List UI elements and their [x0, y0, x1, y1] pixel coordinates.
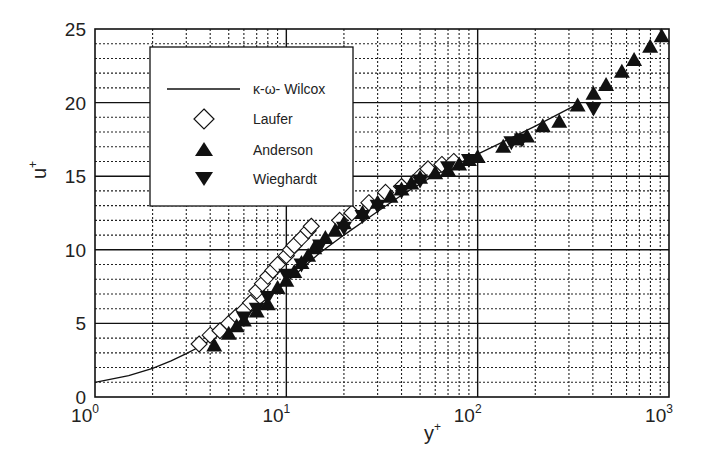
y-tick-label: 20	[65, 93, 86, 114]
y-tick-label: 15	[65, 166, 86, 187]
y-tick-labels: 0510152025	[65, 19, 86, 408]
legend-label-anderson: Anderson	[253, 142, 313, 158]
x-axis-label-main: y	[424, 422, 434, 444]
legend-label-wieghardt: Wieghardt	[253, 171, 317, 187]
y-axis-label-main: u	[28, 168, 50, 179]
y-tick-label: 25	[65, 19, 86, 40]
x-axis-label-sup: +	[434, 420, 441, 434]
legend-label-wilcox: κ-ω- Wilcox	[253, 81, 325, 97]
y-tick-label: 5	[75, 313, 86, 334]
x-tick-label: 100	[71, 402, 99, 426]
y-axis-label-sup: +	[26, 161, 40, 168]
x-axis-label: y+	[424, 420, 441, 444]
x-tick-label: 103	[645, 402, 673, 426]
chart: 0510152025 100101102103 u+ y+ κ-ω- Wilco…	[0, 0, 716, 466]
y-tick-label: 10	[65, 240, 86, 261]
x-tick-labels: 100101102103	[71, 402, 673, 426]
triangle-up-marker	[570, 98, 586, 112]
x-tick-label: 101	[262, 402, 290, 426]
legend-box	[150, 47, 353, 206]
triangle-up-marker	[551, 114, 567, 128]
legend-label-laufer: Laufer	[253, 111, 293, 127]
x-tick-label: 102	[454, 402, 482, 426]
triangle-up-marker	[654, 28, 670, 42]
triangle-down-marker	[585, 102, 601, 116]
svg-text:u+: u+	[26, 161, 50, 179]
svg-text:y+: y+	[424, 420, 441, 444]
legend: κ-ω- Wilcox Laufer Anderson Wieghardt	[150, 47, 353, 206]
triangle-up-marker	[598, 77, 614, 91]
y-axis-label: u+	[26, 161, 50, 179]
